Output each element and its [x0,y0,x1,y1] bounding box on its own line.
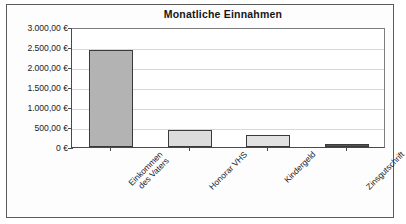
y-axis-tick-label: 1.000,00 € [2,103,68,113]
bar-3 [246,135,290,147]
y-axis-tick-label: 500,00 € [2,123,68,133]
bar-2 [168,130,212,147]
y-axis-tick-label: 0 € [2,143,68,153]
x-axis-label-3: Kindergeld [283,150,318,185]
chart-title: Monatliche Einnahmen [60,8,386,20]
y-axis-tick-label: 2.000,00 € [2,63,68,73]
y-axis-tick-label: 3.000,00 € [2,23,68,33]
y-axis: 3.000,00 €2.500,00 €2.000,00 €1.500,00 €… [2,22,68,156]
x-axis-tick-mark [267,148,268,151]
y-axis-tick-label: 2.500,00 € [2,43,68,53]
x-axis-tick-mark [110,148,111,151]
plot-area [71,28,385,148]
x-axis-tick-mark [346,148,347,151]
y-axis-tick-mark [68,148,73,149]
y-axis-tick-label: 1.500,00 € [2,83,68,93]
bar-4 [325,144,369,147]
x-axis: Einkommen des VatersHonorar VHSKindergel… [71,150,385,220]
bar-1 [89,50,133,147]
x-axis-tick-mark [189,148,190,151]
x-axis-label-2: Honorar VHS [207,150,249,192]
x-axis-label-1: Einkommen des Vaters [127,150,172,195]
